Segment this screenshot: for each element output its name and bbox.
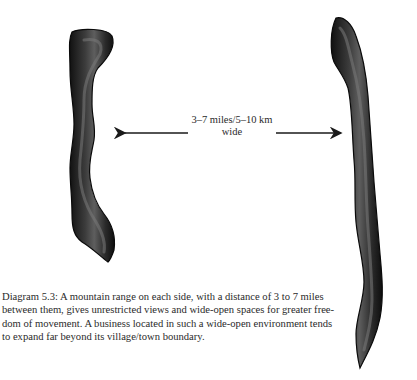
distance-label-line2: wide	[190, 126, 274, 138]
distance-label: 3–7 miles/5–10 km wide	[190, 114, 274, 138]
left-mountain-shape	[70, 29, 115, 262]
caption-line: to expand far beyond its village/town bo…	[2, 330, 354, 343]
caption-line: dom of movement. A business located in s…	[2, 317, 354, 330]
caption-line: Diagram 5.3: A mountain range on each si…	[2, 290, 354, 303]
caption-line: between them, gives unrestricted views a…	[2, 303, 354, 316]
distance-label-line1: 3–7 miles/5–10 km	[190, 114, 274, 126]
figure-caption: Diagram 5.3: A mountain range on each si…	[2, 290, 354, 344]
left-mountain-range	[70, 29, 115, 262]
